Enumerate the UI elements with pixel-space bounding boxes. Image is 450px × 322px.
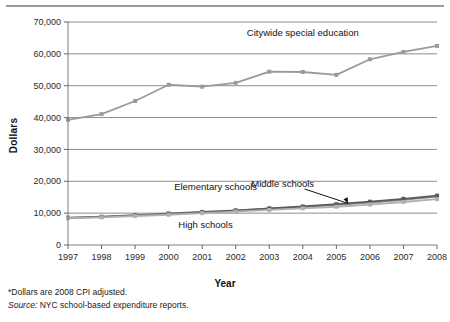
data-point-marker	[267, 70, 271, 74]
source-label: Source:	[8, 300, 37, 310]
data-point-marker	[200, 211, 204, 215]
data-point-marker	[334, 73, 338, 77]
data-point-marker	[435, 197, 439, 201]
data-point-marker	[401, 200, 405, 204]
data-point-marker	[301, 206, 305, 210]
figure-notes: *Dollars are 2008 CPI adjusted. Source: …	[8, 286, 438, 312]
y-axis-ticks-group: 010,00020,00030,00040,00050,00060,00070,…	[33, 17, 61, 250]
data-point-marker	[267, 208, 271, 212]
source-note: Source: NYC school-based expenditure rep…	[8, 299, 438, 312]
y-tick-label: 30,000	[33, 145, 61, 155]
data-point-marker	[435, 194, 439, 198]
data-point-marker	[100, 112, 104, 116]
y-tick-label: 20,000	[33, 176, 61, 186]
x-tick-label: 1997	[58, 252, 78, 262]
y-tick-label: 70,000	[33, 17, 61, 27]
source-value: NYC school-based expenditure reports.	[37, 300, 188, 310]
y-axis-title: Dollars	[8, 118, 19, 153]
series-label: Middle schools	[251, 178, 314, 189]
data-point-marker	[133, 214, 137, 218]
data-point-marker	[301, 70, 305, 74]
chart-area: Dollars 010,00020,00030,00040,00050,0006…	[0, 12, 450, 274]
series-line	[68, 46, 437, 120]
data-point-marker	[435, 44, 439, 48]
data-point-marker	[234, 210, 238, 214]
figure-container: Dollars 010,00020,00030,00040,00050,0006…	[0, 0, 450, 322]
line-chart-svg: 010,00020,00030,00040,00050,00060,00070,…	[0, 12, 450, 274]
data-point-marker	[167, 83, 171, 87]
x-tick-label: 2005	[326, 252, 346, 262]
series-label: High schools	[178, 219, 233, 230]
x-tick-label: 2003	[259, 252, 279, 262]
x-axis-ticks-group: 1997199819992000200120022003200420052006…	[58, 245, 447, 262]
data-point-marker	[368, 57, 372, 61]
data-point-marker	[167, 213, 171, 217]
data-point-marker	[133, 99, 137, 103]
series-line	[68, 197, 437, 218]
y-tick-label: 40,000	[33, 113, 61, 123]
data-point-marker	[334, 205, 338, 209]
series-label: Citywide special education	[247, 27, 359, 38]
data-point-marker	[401, 50, 405, 54]
data-series-group	[66, 44, 439, 220]
x-tick-label: 2006	[360, 252, 380, 262]
x-tick-label: 2000	[159, 252, 179, 262]
x-tick-label: 1999	[125, 252, 145, 262]
data-point-marker	[368, 203, 372, 207]
x-tick-label: 2004	[293, 252, 313, 262]
middle-schools-leader-line	[304, 189, 348, 203]
data-point-marker	[234, 81, 238, 85]
top-divider-rule	[6, 5, 444, 7]
data-point-marker	[100, 215, 104, 219]
x-tick-label: 2002	[226, 252, 246, 262]
series-label: Elementary schools	[174, 181, 257, 192]
y-tick-label: 50,000	[33, 81, 61, 91]
y-tick-label: 0	[56, 240, 61, 250]
data-point-marker	[200, 85, 204, 89]
footnote-cpi: *Dollars are 2008 CPI adjusted.	[8, 286, 438, 299]
x-tick-label: 1998	[92, 252, 112, 262]
x-tick-label: 2007	[393, 252, 413, 262]
series-annotations-group: Citywide special educationElementary sch…	[174, 27, 359, 230]
x-tick-label: 2008	[427, 252, 447, 262]
x-tick-label: 2001	[192, 252, 212, 262]
y-tick-label: 60,000	[33, 49, 61, 59]
y-tick-label: 10,000	[33, 208, 61, 218]
series-line	[68, 196, 437, 218]
